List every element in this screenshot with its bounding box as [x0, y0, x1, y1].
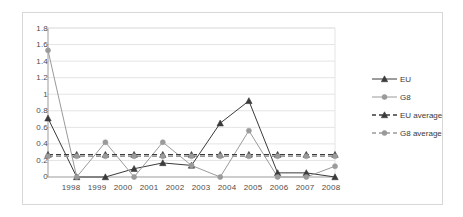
ytick-label-0.6: 0.6: [26, 123, 48, 132]
datapoint-g8-average-2004: [218, 154, 223, 159]
ytick-label-0.8: 0.8: [26, 106, 48, 115]
ytick-label-1.8: 1.8: [26, 24, 48, 33]
datapoint-g8-average-2005: [246, 154, 251, 159]
ytick-label-1.4: 1.4: [26, 57, 48, 66]
ytick-label-0.2: 0.2: [26, 156, 48, 165]
legend-marker-g8: [382, 95, 387, 100]
datapoint-g8-2006: [275, 175, 280, 180]
datapoint-g8-average-2003: [189, 154, 194, 159]
ytick-label-0.4: 0.4: [26, 139, 48, 148]
legend-label-g8[interactable]: G8: [400, 93, 411, 102]
ytick-label-1.2: 1.2: [26, 73, 48, 82]
datapoint-g8-2004: [218, 175, 223, 180]
ytick-label-1: 1: [26, 90, 48, 99]
ytick-label-1.6: 1.6: [26, 40, 48, 49]
legend-label-g8-average[interactable]: G8 average: [400, 129, 442, 138]
legend-label-eu[interactable]: EU: [400, 75, 411, 84]
legend-label-eu-average[interactable]: EU average: [400, 111, 442, 120]
datapoint-g8-average-2006: [275, 154, 280, 159]
legend-glyphs: [372, 76, 397, 136]
datapoint-g8-average-2002: [160, 154, 165, 159]
datapoint-g8-1999: [74, 175, 79, 180]
datapoint-g8-2005: [246, 128, 251, 133]
ytick-label-0: 0: [26, 172, 48, 181]
datapoint-g8-average-2007: [304, 154, 309, 159]
chart-figure: 1.8 1.6 1.4 1.2 1 0.8 0.6 0.4 0.2 0 1998…: [0, 0, 463, 217]
series-markers: [45, 48, 338, 180]
datapoint-g8-2000: [103, 140, 108, 145]
datapoint-g8-2003: [189, 163, 194, 168]
datapoint-g8-average-2000: [103, 154, 108, 159]
gridlines: [48, 28, 335, 160]
datapoint-eu-2005: [246, 98, 252, 104]
datapoint-g8-average-2001: [132, 154, 137, 159]
datapoint-g8-2007: [304, 175, 309, 180]
datapoint-g8-average-1999: [74, 154, 79, 159]
datapoint-g8-2008: [333, 164, 338, 169]
datapoint-g8-2002: [160, 140, 165, 145]
datapoint-g8-average-2008: [333, 154, 338, 159]
datapoint-eu-1998: [45, 115, 51, 121]
legend-marker-g8-average: [382, 131, 387, 136]
xtick-label-2008: 2008: [316, 183, 346, 192]
datapoint-g8-2001: [132, 175, 137, 180]
